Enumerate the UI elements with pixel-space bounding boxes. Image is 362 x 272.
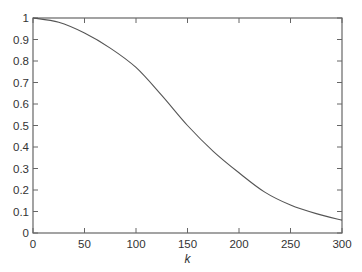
y-tick-label: 0.5 [13, 120, 29, 132]
y-tick-label: 0.6 [13, 98, 29, 110]
line-chart: 00.10.20.30.40.50.60.70.80.91 0501001502… [0, 0, 362, 272]
y-tick-label: 0 [23, 227, 29, 239]
y-tick-label: 1 [23, 12, 29, 24]
x-tick-label: 300 [332, 238, 351, 250]
x-tick-label: 0 [30, 238, 36, 250]
y-tick-label: 0.4 [13, 141, 30, 153]
x-axis: 050100150200250300 [30, 18, 352, 250]
y-tick-label: 0.8 [13, 55, 29, 67]
y-tick-label: 0.3 [13, 163, 29, 175]
x-tick-label: 50 [78, 238, 91, 250]
y-axis: 00.10.20.30.40.50.60.70.80.91 [13, 12, 342, 239]
x-tick-label: 150 [178, 238, 197, 250]
x-tick-label: 100 [126, 238, 145, 250]
data-series [33, 18, 342, 220]
y-tick-label: 0.1 [13, 206, 29, 218]
x-tick-label: 200 [229, 238, 248, 250]
x-tick-label: 250 [281, 238, 300, 250]
y-tick-label: 0.7 [13, 77, 29, 89]
x-axis-label: k [185, 252, 192, 266]
y-tick-label: 0.9 [13, 34, 29, 46]
y-tick-label: 0.2 [13, 184, 29, 196]
series-line [33, 18, 342, 220]
